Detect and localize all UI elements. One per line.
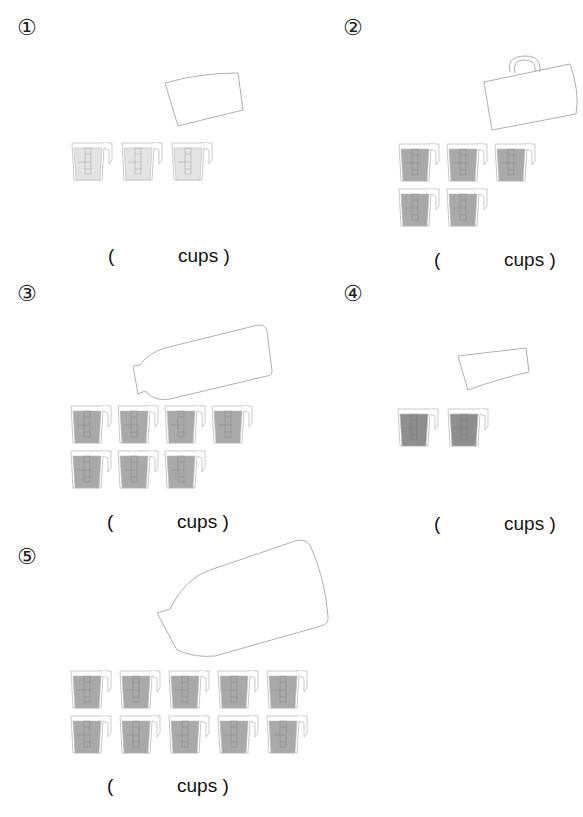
measuring-cup-icon <box>446 188 490 232</box>
open-paren: ( <box>107 776 113 796</box>
problem-number-2: ② <box>343 17 363 39</box>
measuring-cup-icon <box>117 405 161 449</box>
measuring-cup-icon <box>211 405 255 449</box>
problem-number-3: ③ <box>17 283 37 305</box>
measuring-cup-icon <box>164 450 208 494</box>
measuring-cup-icon <box>121 142 165 186</box>
measuring-cup-icon <box>397 408 441 452</box>
measuring-cup-icon <box>447 408 491 452</box>
container-1-icon <box>160 68 240 128</box>
container-2-mug-icon <box>478 52 583 142</box>
measuring-cup-icon <box>266 670 310 714</box>
measuring-cup-icon <box>117 450 161 494</box>
measuring-cup-icon <box>119 715 163 759</box>
measuring-cup-icon <box>70 715 114 759</box>
measuring-cup-icon <box>168 670 212 714</box>
measuring-cup-icon <box>171 142 215 186</box>
measuring-cup-icon <box>70 405 114 449</box>
answer-blank-4[interactable]: ( cups ) <box>434 514 445 574</box>
answer-blank-2[interactable]: ( cups ) <box>434 250 445 310</box>
measuring-cup-icon <box>119 670 163 714</box>
container-3-bottle-icon <box>130 323 280 403</box>
measuring-cup-icon <box>164 405 208 449</box>
problem-number-5: ⑤ <box>17 546 37 568</box>
container-4-glass-icon <box>456 348 536 398</box>
unit-label: cups ) <box>504 250 556 270</box>
answer-blank-3[interactable]: ( cups ) <box>107 512 118 572</box>
unit-label: cups ) <box>177 776 229 796</box>
measuring-cup-icon <box>70 450 114 494</box>
measuring-cup-icon <box>168 715 212 759</box>
measuring-cup-icon <box>494 143 538 187</box>
open-paren: ( <box>434 514 440 534</box>
unit-label: cups ) <box>178 246 230 266</box>
measuring-cup-icon <box>71 142 115 186</box>
unit-label: cups ) <box>177 512 229 532</box>
answer-blank-1[interactable]: ( cups ) <box>108 246 119 306</box>
container-5-large-bottle-icon <box>155 538 340 673</box>
measuring-cup-icon <box>266 715 310 759</box>
open-paren: ( <box>108 246 114 266</box>
problem-number-1: ① <box>17 17 37 39</box>
answer-blank-5[interactable]: ( cups ) <box>107 776 118 817</box>
open-paren: ( <box>434 250 440 270</box>
measuring-cup-icon <box>217 715 261 759</box>
measuring-cup-icon <box>70 670 114 714</box>
measuring-cup-icon <box>217 670 261 714</box>
measuring-cup-icon <box>398 143 442 187</box>
measuring-cup-icon <box>398 188 442 232</box>
open-paren: ( <box>107 512 113 532</box>
problem-number-4: ④ <box>343 283 363 305</box>
measuring-cup-icon <box>446 143 490 187</box>
unit-label: cups ) <box>504 514 556 534</box>
